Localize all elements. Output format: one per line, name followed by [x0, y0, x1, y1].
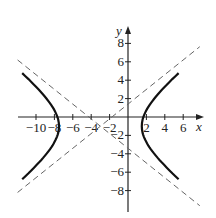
x-tick-label: 2 [143, 120, 150, 135]
hyperbola-chart: xy−10−8−6−4−2246−8−6−4−22468 [0, 0, 216, 218]
x-tick-label: −6 [66, 120, 80, 135]
y-arrow-icon [125, 26, 131, 34]
y-tick-label: −6 [110, 164, 124, 179]
y-tick-label: 2 [118, 91, 125, 106]
y-tick-label: 6 [118, 54, 125, 69]
y-tick-label: 4 [118, 72, 125, 87]
y-tick-label: −4 [110, 146, 124, 161]
y-tick-label: 8 [118, 35, 125, 50]
y-tick-label: −8 [110, 183, 124, 198]
chart-canvas: xy−10−8−6−4−2246−8−6−4−22468 [0, 0, 216, 218]
x-tick-label: 4 [162, 120, 169, 135]
x-tick-label: −10 [26, 120, 46, 135]
y-tick-label: −2 [110, 127, 124, 142]
x-axis-label: x [195, 119, 202, 134]
x-tick-label: 6 [180, 120, 187, 135]
